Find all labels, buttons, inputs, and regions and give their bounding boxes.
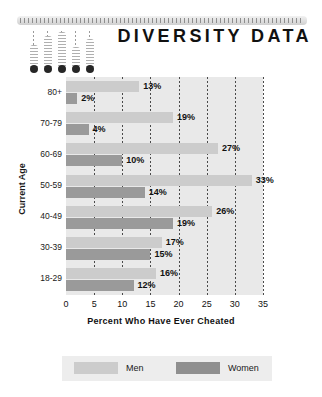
y-tick-80+: 80+ bbox=[2, 87, 62, 97]
bar-men-80+ bbox=[66, 81, 139, 92]
bar-women-50-59 bbox=[66, 187, 145, 198]
gridline-35 bbox=[263, 77, 264, 295]
y-tick-40-49: 40-49 bbox=[2, 211, 62, 221]
thermometer-bulb bbox=[58, 65, 66, 73]
chart-legend: Men Women bbox=[62, 356, 272, 381]
value-label-men-18-29: 16% bbox=[160, 268, 178, 279]
bar-men-60-69 bbox=[66, 143, 218, 154]
value-label-women-30-39: 15% bbox=[154, 249, 172, 260]
y-tick-60-69: 60-69 bbox=[2, 149, 62, 159]
thermometer-bulb bbox=[44, 65, 52, 73]
x-tick-20: 20 bbox=[169, 299, 189, 309]
legend-swatch-men bbox=[74, 362, 118, 374]
bar-men-30-39 bbox=[66, 237, 162, 248]
bar-women-70-79 bbox=[66, 124, 89, 135]
thermometer-stem bbox=[86, 39, 94, 67]
diversity-data-chart-page: DIVERSITY DATA Current Age 13%2%19%4%27%… bbox=[0, 0, 322, 397]
gridline-25 bbox=[207, 77, 208, 295]
value-label-women-18-29: 12% bbox=[138, 280, 156, 291]
thermometer-stem bbox=[44, 36, 52, 67]
value-label-women-70-79: 4% bbox=[93, 124, 106, 135]
gridline-20 bbox=[179, 77, 180, 295]
value-label-women-40-49: 19% bbox=[177, 218, 195, 229]
bar-men-18-29 bbox=[66, 268, 156, 279]
chart-area: Current Age 13%2%19%4%27%10%33%14%26%19%… bbox=[0, 76, 322, 321]
plot-area: 13%2%19%4%27%10%33%14%26%19%17%15%16%12% bbox=[66, 77, 263, 295]
value-label-women-50-59: 14% bbox=[149, 187, 167, 198]
value-label-men-40-49: 26% bbox=[216, 206, 234, 217]
x-tick-35: 35 bbox=[253, 299, 273, 309]
value-label-men-70-79: 19% bbox=[177, 112, 195, 123]
thermometer-stem bbox=[30, 45, 38, 67]
thermometer-lead-line bbox=[89, 31, 90, 39]
x-tick-25: 25 bbox=[197, 299, 217, 309]
x-tick-15: 15 bbox=[140, 299, 160, 309]
x-tick-5: 5 bbox=[84, 299, 104, 309]
legend-label-men: Men bbox=[126, 363, 144, 373]
thermometer-bulb bbox=[72, 65, 80, 73]
y-tick-50-59: 50-59 bbox=[2, 180, 62, 190]
legend-label-women: Women bbox=[228, 363, 259, 373]
x-tick-10: 10 bbox=[112, 299, 132, 309]
bar-women-60-69 bbox=[66, 155, 122, 166]
thermometer-stem bbox=[58, 32, 66, 67]
value-label-women-60-69: 10% bbox=[126, 155, 144, 166]
bar-men-40-49 bbox=[66, 206, 212, 217]
thermometer-stem bbox=[72, 47, 80, 67]
value-label-women-80+: 2% bbox=[81, 93, 94, 104]
bar-women-80+ bbox=[66, 93, 77, 104]
thermometer-lead-line bbox=[33, 31, 34, 45]
thermometer-bulb bbox=[30, 65, 38, 73]
thermometer-group-icon bbox=[30, 25, 100, 73]
y-tick-70-79: 70-79 bbox=[2, 118, 62, 128]
gridline-30 bbox=[235, 77, 236, 295]
bar-women-18-29 bbox=[66, 280, 134, 291]
legend-swatch-women bbox=[176, 362, 220, 374]
ruler-ticks-icon bbox=[20, 18, 304, 23]
x-tick-0: 0 bbox=[56, 299, 76, 309]
header-graphic: DIVERSITY DATA bbox=[0, 0, 322, 76]
value-label-men-30-39: 17% bbox=[166, 237, 184, 248]
bar-women-30-39 bbox=[66, 249, 150, 260]
page-title: DIVERSITY DATA bbox=[117, 26, 312, 47]
x-tick-30: 30 bbox=[225, 299, 245, 309]
x-axis-label: Percent Who Have Ever Cheated bbox=[0, 316, 322, 326]
y-tick-18-29: 18-29 bbox=[2, 273, 62, 283]
thermometer-lead-line bbox=[75, 31, 76, 47]
value-label-men-80+: 13% bbox=[143, 81, 161, 92]
value-label-men-60-69: 27% bbox=[222, 143, 240, 154]
bar-women-40-49 bbox=[66, 218, 173, 229]
bar-men-70-79 bbox=[66, 112, 173, 123]
thermometer-bulb bbox=[86, 65, 94, 73]
bar-men-50-59 bbox=[66, 175, 252, 186]
y-tick-30-39: 30-39 bbox=[2, 242, 62, 252]
value-label-men-50-59: 33% bbox=[256, 175, 274, 186]
